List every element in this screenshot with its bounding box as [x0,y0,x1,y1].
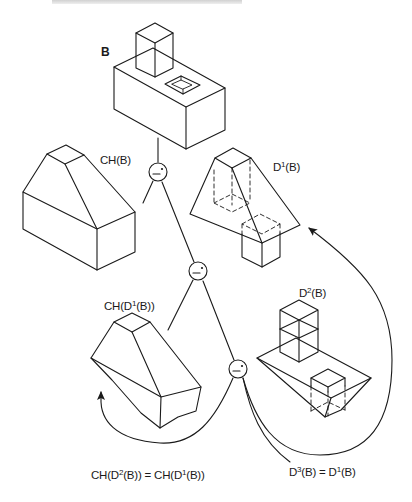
solid-d2-b [257,300,371,417]
label-d2-b: D2(B) [299,287,326,300]
label-d1-b-base: D [273,161,281,173]
label-ch-b-text: CH(B) [100,154,131,166]
label-d1-b-arg: (B) [285,161,300,173]
label-ch-b: CH(B) [100,155,131,167]
label-ch-d1-b: CH(D1(B)) [104,300,155,313]
diff-node-3 [229,360,247,378]
label-ch-d1-b-arg: (B)) [136,300,154,312]
alternating-sum-of-volumes-figure: B CH(B) D1(B) CH(D1(B)) D2(B) CH(D2(B)) … [0,0,412,502]
label-b: B [101,46,109,58]
label-d1-b: D1(B) [273,161,300,174]
loop-arrow-left [101,378,233,443]
equation-left: CH(D2(B)) = CH(D1(B)) [91,469,205,482]
equation-right-part3: (B) [341,466,356,478]
equation-left-part1: CH(D [91,469,119,481]
diff-node-2 [189,262,207,280]
diagram-canvas [0,0,412,502]
label-d2-b-base: D [299,287,307,299]
equation-right-part2: (B) = D [301,466,336,478]
solid-ch-d1-b [91,313,201,428]
diff-node-1 [149,163,167,181]
solid-b [114,23,225,149]
label-ch-d1-b-base: CH(D [104,300,132,312]
equation-left-part2: (B)) = CH(D [123,469,182,481]
equation-right: D3(B) = D1(B) [289,466,356,479]
label-d2-b-arg: (B) [311,287,326,299]
equation-right-part1: D [289,466,297,478]
equation-left-part3: (B)) [186,469,204,481]
tree-connectors [143,138,290,462]
